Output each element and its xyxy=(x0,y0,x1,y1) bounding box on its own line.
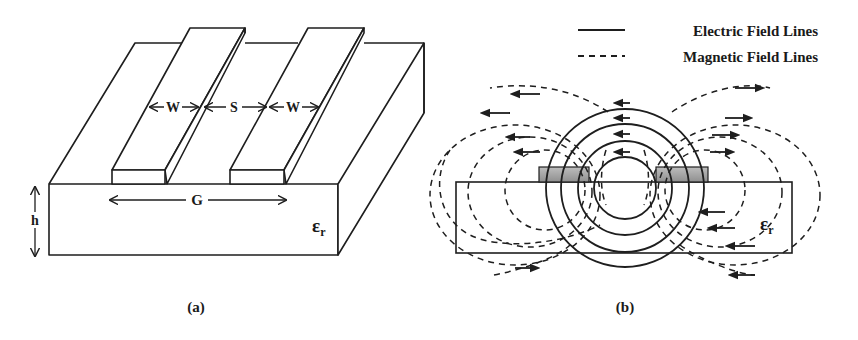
strip-cross-section-right xyxy=(656,167,708,182)
legend-label-electric: Electric Field Lines xyxy=(693,23,818,39)
label-h: h xyxy=(31,213,39,228)
figure-canvas: W S W G h εr (a) xyxy=(0,0,858,340)
panel-a xyxy=(35,28,424,256)
label-w-right: W xyxy=(286,100,300,115)
caption-a: (a) xyxy=(187,299,205,316)
legend: Electric Field Lines Magnetic Field Line… xyxy=(578,23,818,65)
label-s: S xyxy=(230,100,238,115)
substrate-right-face xyxy=(338,43,424,255)
legend-label-magnetic: Magnetic Field Lines xyxy=(683,49,818,65)
substrate-cross-section xyxy=(456,182,792,253)
panel-b xyxy=(430,86,820,275)
label-w-left: W xyxy=(166,100,180,115)
label-g: G xyxy=(191,192,203,208)
caption-b: (b) xyxy=(616,299,634,316)
